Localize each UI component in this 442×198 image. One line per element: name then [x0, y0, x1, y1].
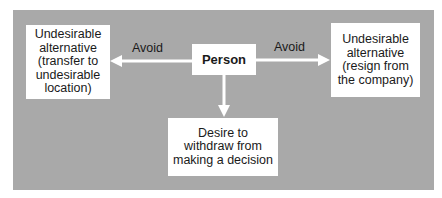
right-alternative-text: Undesirable alternative (resign from the…: [338, 33, 414, 87]
right-alternative-box: Undesirable alternative (resign from the…: [331, 23, 420, 97]
arrow-left-icon: [110, 55, 192, 67]
arrow-right-icon: [256, 54, 330, 66]
person-label: Person: [202, 53, 246, 67]
arrow-down-icon: [218, 75, 230, 117]
withdraw-desire-text: Desire to withdraw from making a decisio…: [173, 127, 273, 168]
left-alternative-box: Undesirable alternative (transfer to und…: [26, 25, 110, 99]
left-alternative-text: Undesirable alternative (transfer to und…: [35, 28, 102, 96]
right-avoid-label: Avoid: [274, 40, 305, 54]
withdraw-desire-box: Desire to withdraw from making a decisio…: [168, 118, 278, 176]
person-box: Person: [192, 44, 256, 75]
left-avoid-label: Avoid: [132, 41, 163, 55]
